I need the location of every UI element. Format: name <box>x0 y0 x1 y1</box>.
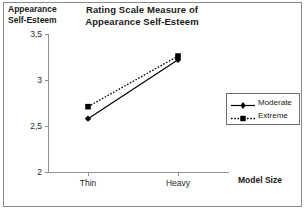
series-extreme-line <box>88 56 178 107</box>
legend-label-extreme: Extreme <box>258 111 288 120</box>
legend-label-moderate: Moderate <box>258 98 292 107</box>
legend-item-moderate: Moderate <box>230 96 298 109</box>
series-extreme <box>85 53 181 109</box>
series-moderate <box>85 57 181 122</box>
series-moderate-line <box>88 60 178 119</box>
legend-item-extreme: Extreme <box>230 109 298 122</box>
chart-legend: Moderate Extreme <box>226 93 300 125</box>
series-moderate-point-thin <box>85 115 91 121</box>
chart-plot-area: Rating Scale Measure of Appearance Self-… <box>0 0 305 211</box>
series-extreme-point-thin <box>85 104 91 110</box>
legend-swatch-moderate-icon <box>230 97 256 108</box>
chart-screenshot: Rating Scale Measure of Appearance Self-… <box>0 0 305 211</box>
legend-swatch-extreme-icon <box>230 110 256 121</box>
